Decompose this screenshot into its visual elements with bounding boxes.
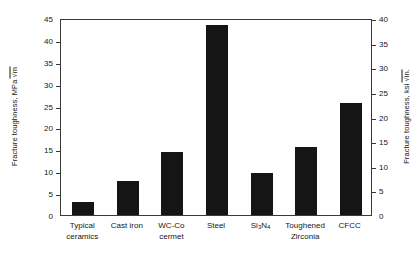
y-axis-right-tick-label: 20 bbox=[379, 115, 401, 123]
y-axis-left-tick-label: 5 bbox=[31, 191, 53, 199]
y-axis-left-tick-label: 25 bbox=[31, 104, 53, 112]
y-axis-left-tick-label: 20 bbox=[31, 125, 53, 133]
bar bbox=[295, 147, 317, 215]
y-axis-left-tick-label: 0 bbox=[31, 213, 53, 221]
y-axis-left-tick bbox=[56, 86, 61, 87]
y-axis-right-title: Fracture toughness, ksi√in. bbox=[402, 37, 411, 197]
y-axis-left-tick bbox=[56, 151, 61, 152]
y-axis-left-tick-label: 40 bbox=[31, 38, 53, 46]
y-axis-right-tick bbox=[371, 119, 376, 120]
y-axis-right-tick-label: 0 bbox=[379, 213, 401, 221]
y-axis-left-tick bbox=[56, 64, 61, 65]
y-axis-left-tick bbox=[56, 42, 61, 43]
y-axis-left-tick bbox=[56, 129, 61, 130]
y-axis-right-tick-label: 10 bbox=[379, 164, 401, 172]
y-axis-left-tick-label: 30 bbox=[31, 82, 53, 90]
fracture-toughness-bar-chart: Fracture toughness, MPa√m Fracture tough… bbox=[0, 0, 420, 270]
bar bbox=[340, 103, 362, 215]
y-axis-left-tick bbox=[56, 108, 61, 109]
y-axis-right-title-text: Fracture toughness, ksi bbox=[402, 84, 411, 164]
y-axis-right-tick-label: 40 bbox=[379, 16, 401, 24]
bar bbox=[251, 173, 273, 215]
y-axis-right-tick bbox=[371, 45, 376, 46]
plot-area: 051015202530354045 0510152025303540 bbox=[60, 19, 372, 216]
y-axis-left-title: Fracture toughness, MPa√m bbox=[10, 37, 19, 197]
radical-symbol-right: √in. bbox=[402, 69, 411, 82]
bar bbox=[161, 152, 183, 215]
y-axis-right-tick-label: 25 bbox=[379, 90, 401, 98]
y-axis-right-tick bbox=[371, 94, 376, 95]
y-axis-left-tick bbox=[56, 173, 61, 174]
y-axis-right-tick-label: 35 bbox=[379, 41, 401, 49]
y-axis-right-tick bbox=[371, 69, 376, 70]
x-axis-category-label: CFCC bbox=[310, 221, 390, 232]
y-axis-right-tick bbox=[371, 168, 376, 169]
y-axis-left-tick bbox=[56, 195, 61, 196]
bar bbox=[206, 25, 228, 215]
y-axis-right-tick-label: 30 bbox=[379, 65, 401, 73]
y-axis-right-tick-label: 15 bbox=[379, 139, 401, 147]
y-axis-right-tick bbox=[371, 192, 376, 193]
y-axis-left-title-text: Fracture toughness, MPa bbox=[10, 80, 19, 167]
y-axis-left-tick-label: 35 bbox=[31, 60, 53, 68]
y-axis-right-tick bbox=[371, 20, 376, 21]
y-axis-left-tick-label: 10 bbox=[31, 169, 53, 177]
bar bbox=[72, 202, 94, 215]
radicand-right: in. bbox=[402, 69, 411, 77]
y-axis-left-tick-label: 15 bbox=[31, 147, 53, 155]
bar bbox=[117, 181, 139, 215]
radicand-left: m bbox=[10, 67, 19, 73]
radical-symbol-left: √m bbox=[10, 67, 19, 79]
y-axis-right-tick-label: 5 bbox=[379, 188, 401, 196]
y-axis-right-tick bbox=[371, 143, 376, 144]
y-axis-left-tick-label: 45 bbox=[31, 16, 53, 24]
